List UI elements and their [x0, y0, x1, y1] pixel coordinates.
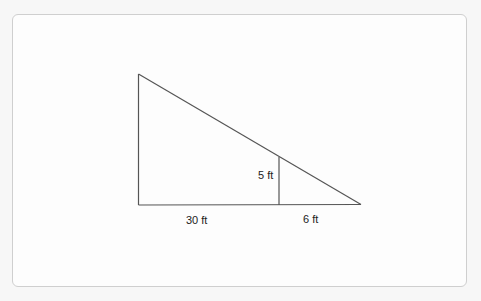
- base-line: [139, 205, 362, 206]
- left-base-label: 30 ft: [186, 215, 207, 226]
- right-base-label: 6 ft: [303, 214, 318, 225]
- hypotenuse: [139, 74, 362, 205]
- triangle-diagram: [0, 0, 481, 301]
- inner-height-label: 5 ft: [258, 170, 273, 181]
